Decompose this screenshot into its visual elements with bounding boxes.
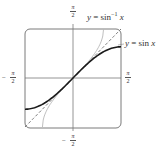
arcsin-label: y = sin−1 x bbox=[87, 11, 124, 22]
y-bottom-fraction: π 2 bbox=[70, 133, 76, 147]
eq-text: = sin bbox=[91, 12, 111, 22]
pi-symbol: π bbox=[71, 133, 74, 139]
pi-symbol: π bbox=[71, 4, 74, 10]
sin-label: y = sin x bbox=[125, 39, 155, 48]
y-top-tick-label: π 2 bbox=[70, 4, 76, 18]
pi-symbol: π bbox=[11, 70, 14, 76]
pi-symbol: π bbox=[126, 70, 129, 76]
var-x: x bbox=[117, 12, 123, 22]
eq-text: = sin bbox=[129, 38, 151, 48]
denominator: 2 bbox=[127, 78, 130, 84]
minus-sign: − bbox=[2, 74, 6, 82]
denominator: 2 bbox=[12, 78, 15, 84]
denominator: 2 bbox=[72, 12, 75, 18]
graph-figure bbox=[0, 0, 162, 151]
x-left-fraction: π 2 bbox=[10, 70, 16, 84]
denominator: 2 bbox=[72, 141, 75, 147]
var-x: x bbox=[151, 38, 155, 48]
minus-sign: − bbox=[62, 137, 66, 145]
x-right-tick-label: π 2 bbox=[125, 70, 131, 84]
